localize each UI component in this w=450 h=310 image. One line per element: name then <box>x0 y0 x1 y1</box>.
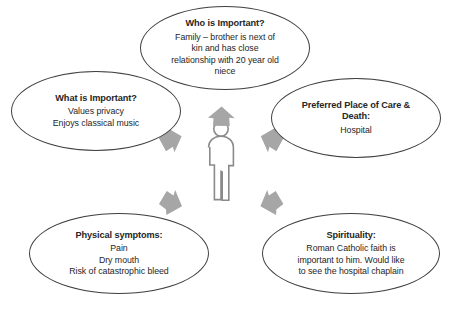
bubble-body: Family – brother is next of kin and has … <box>169 32 281 78</box>
bubble-line: Enjoys classical music <box>53 118 139 129</box>
bubble-title: Spirituality: <box>326 230 375 242</box>
bubble-preferred-place-of-care-death[interactable]: Preferred Place of Care & Death: Hospita… <box>271 78 441 158</box>
bubble-line: Dry mouth <box>99 255 139 266</box>
person-icon <box>209 122 234 200</box>
bubble-what-is-important[interactable]: What is Important? Values privacy Enjoys… <box>11 71 181 151</box>
bubble-line: Values privacy <box>68 106 124 117</box>
bubble-physical-symptoms[interactable]: Physical symptoms: Pain Dry mouth Risk o… <box>29 213 209 294</box>
bubble-line: Pain <box>110 243 127 254</box>
arrow-outward-icon-up <box>208 107 235 126</box>
arrow-outward-icon-lower-right <box>260 190 283 215</box>
bubble-spirituality[interactable]: Spirituality: Roman Catholic faith is im… <box>262 213 440 294</box>
bubble-title: What is Important? <box>55 93 136 105</box>
bubble-title: Preferred Place of Care & Death: <box>296 100 416 123</box>
bubble-line: Hospital <box>340 125 371 136</box>
bubble-title: Who is Important? <box>186 18 265 30</box>
bubble-line: Risk of catastrophic bleed <box>69 266 168 277</box>
bubble-title: Physical symptoms: <box>75 230 162 242</box>
bubble-body: Roman Catholic faith is important to him… <box>293 243 409 277</box>
arrow-outward-icon-lower-left <box>159 190 182 215</box>
bubble-who-is-important[interactable]: Who is Important? Family – brother is ne… <box>140 6 310 90</box>
